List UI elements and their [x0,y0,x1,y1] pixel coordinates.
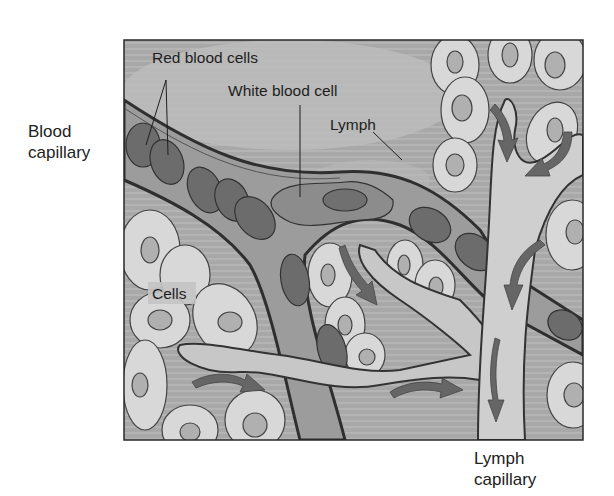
label-blood-capillary-line2: capillary [28,142,90,163]
label-lymph-capillary-line2: capillary [474,469,536,490]
label-red-blood-cells: Red blood cells [152,49,258,66]
label-lymph: Lymph [330,116,376,133]
label-cells: Cells [152,285,187,302]
white-blood-cell [271,182,393,226]
label-blood-capillary-line1: Blood [28,121,90,142]
label-blood-capillary: Blood capillary [28,121,90,163]
label-lymph-capillary-line1: Lymph [474,448,536,469]
label-white-blood-cell: White blood cell [228,82,337,99]
diagram-body: Red blood cells White blood cell Lymph C… [120,27,599,455]
label-lymph-capillary: Lymph capillary [474,448,536,490]
capillary-diagram: Red blood cells White blood cell Lymph C… [0,0,614,496]
